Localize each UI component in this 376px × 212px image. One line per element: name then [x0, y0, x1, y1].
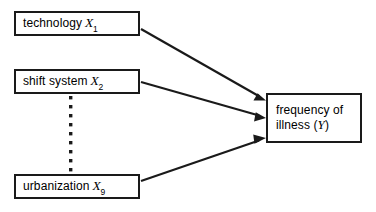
node-technology-symbol: X1	[82, 15, 98, 33]
node-illness-line2: illness (Y)	[276, 117, 343, 132]
edge-urbanization-to-illness	[141, 135, 266, 182]
path-diagram-canvas: technologyX1 shift systemX2 urbanization…	[0, 0, 376, 212]
edge-technology-to-illness	[141, 29, 266, 101]
node-illness-text-wrap: frequency ofillness (Y)	[276, 103, 343, 132]
node-frequency-of-illness: frequency ofillness (Y)	[266, 93, 362, 143]
node-technology: technologyX1	[14, 11, 140, 36]
arrowhead-x2	[254, 112, 266, 121]
node-shift-system-symbol: X2	[88, 73, 104, 91]
node-illness-line2-prefix: illness (	[276, 118, 318, 132]
node-illness-symbol: Y	[318, 117, 325, 132]
edge-line-x9	[141, 141, 259, 182]
node-shift-system-subscript: 2	[98, 82, 103, 92]
edge-shift-system-to-illness	[141, 82, 266, 122]
node-urbanization: urbanizationX9	[14, 174, 140, 199]
node-shift-system: shift systemX2	[14, 69, 140, 94]
vertical-dots-icon	[69, 96, 72, 171]
node-illness-line2-suffix: )	[325, 118, 329, 132]
node-technology-subscript: 1	[93, 24, 98, 34]
node-illness-line1: frequency of	[276, 103, 343, 117]
node-shift-system-label: shift system	[23, 74, 88, 88]
arrowhead-x9	[253, 135, 266, 144]
node-urbanization-subscript: 9	[100, 187, 105, 197]
node-urbanization-symbol: X9	[90, 178, 106, 196]
node-urbanization-label: urbanization	[23, 179, 90, 193]
node-technology-label: technology	[23, 16, 82, 30]
